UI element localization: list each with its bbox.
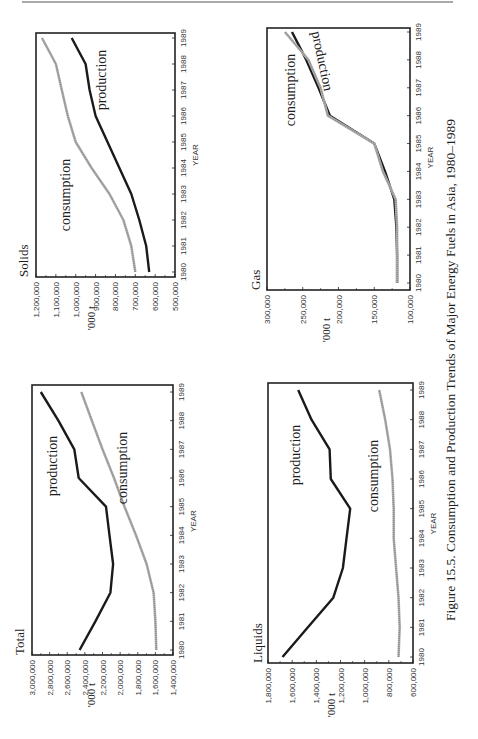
x-tick-label: 1988	[177, 411, 186, 429]
y-tick-label: 2,800,000	[46, 659, 55, 695]
y-tick-label: 150,000	[370, 294, 379, 323]
y-axis-title: '000 t	[320, 318, 332, 342]
x-tick-label: 1987	[414, 78, 423, 96]
x-tick-label: 1984	[177, 526, 186, 544]
production-label: production	[288, 425, 303, 486]
consumption-line	[379, 390, 400, 657]
y-tick-label: 500,000	[171, 281, 180, 310]
x-tick-label: 1980	[177, 641, 186, 659]
y-tick-label: 1,200,000	[337, 667, 346, 703]
x-tick-label: 1981	[177, 612, 186, 630]
x-tick-label: 1980	[417, 648, 426, 666]
x-tick-label: 1983	[177, 555, 186, 573]
x-tick-label: 1981	[417, 618, 426, 636]
x-tick-label: 1984	[179, 159, 188, 177]
x-tick-label: 1989	[177, 383, 186, 401]
production-line	[41, 392, 113, 650]
figure-page: 1980198119821983198419851986198719881989…	[0, 0, 478, 739]
x-tick-label: 1988	[179, 55, 188, 73]
x-axis-title: YEAR	[429, 512, 438, 534]
y-tick-label: 2,200,000	[99, 659, 108, 695]
x-tick-label: 1983	[417, 559, 426, 577]
x-tick-label: 1984	[417, 529, 426, 547]
x-tick-label: 1981	[414, 246, 423, 264]
y-tick-label: 800,000	[385, 667, 394, 696]
panel-title: Liquids	[250, 623, 265, 663]
y-tick-label: 1,600,000	[151, 659, 160, 695]
y-tick-label: 600,000	[151, 281, 160, 310]
x-tick-label: 1986	[179, 107, 188, 125]
y-tick-label: 3,000,000	[28, 659, 37, 695]
production-label: production	[45, 436, 60, 497]
x-tick-label: 1980	[179, 263, 188, 281]
x-tick-label: 1988	[417, 410, 426, 428]
y-axis-title: '000 t	[325, 693, 337, 717]
figure-svg: 1980198119821983198419851986198719881989…	[0, 0, 478, 739]
plot-frame	[32, 385, 173, 655]
x-tick-label: 1983	[179, 185, 188, 203]
production-label: production	[94, 50, 109, 111]
panel-title: Total	[12, 628, 27, 655]
consumption-label: consumption	[115, 432, 130, 504]
panel-title: Solids	[16, 244, 31, 277]
panel-liquids: 1980198119821983198419851986198719881989…	[250, 381, 438, 718]
x-tick-label: 1985	[177, 497, 186, 515]
x-tick-label: 1985	[417, 499, 426, 517]
x-axis-title: YEAR	[189, 510, 198, 532]
y-tick-label: 1,800,000	[264, 667, 273, 703]
x-tick-label: 1983	[414, 190, 423, 208]
y-tick-label: 700,000	[131, 281, 140, 310]
y-tick-label: 1,400,000	[169, 659, 178, 695]
y-tick-label: 1,200,000	[32, 281, 41, 317]
x-tick-label: 1985	[179, 133, 188, 151]
y-tick-label: 250,000	[299, 294, 308, 323]
x-tick-label: 1985	[414, 134, 423, 152]
consumption-line-halo	[42, 38, 135, 272]
x-tick-label: 1982	[414, 218, 423, 236]
x-axis-title: YEAR	[191, 144, 200, 166]
consumption-line-halo	[379, 390, 400, 657]
y-tick-label: 600,000	[409, 667, 418, 696]
x-tick-label: 1984	[414, 162, 423, 180]
y-tick-label: 200,000	[335, 294, 344, 323]
y-tick-label: 1,400,000	[312, 667, 321, 703]
y-axis-title: '000 t	[85, 683, 97, 707]
panel-gas: 1980198119821983198419851986198719881989…	[248, 23, 435, 343]
x-tick-label: 1989	[417, 381, 426, 399]
consumption-label: consumption	[366, 440, 381, 512]
consumption-line-halo	[81, 392, 156, 650]
panel-solids: 1980198119821983198419851986198719881989…	[16, 29, 200, 331]
y-tick-label: 800,000	[111, 281, 120, 310]
x-axis-title: YEAR	[426, 146, 435, 168]
x-tick-label: 1989	[414, 23, 423, 41]
consumption-line	[81, 392, 156, 650]
x-tick-label: 1982	[417, 588, 426, 606]
x-tick-label: 1982	[177, 583, 186, 601]
x-tick-label: 1986	[417, 470, 426, 488]
x-tick-label: 1981	[179, 237, 188, 255]
consumption-label: consumption	[283, 54, 298, 126]
x-tick-label: 1986	[414, 106, 423, 124]
x-tick-label: 1987	[177, 440, 186, 458]
production-label: production	[309, 30, 336, 92]
x-tick-label: 1982	[179, 211, 188, 229]
panel-title: Gas	[248, 270, 263, 290]
y-axis-title: '000 t	[85, 306, 97, 330]
x-tick-label: 1988	[414, 50, 423, 68]
panel-total: 1980198119821983198419851986198719881989…	[12, 383, 198, 708]
x-tick-label: 1986	[177, 469, 186, 487]
production-line	[292, 32, 397, 283]
x-tick-label: 1980	[414, 274, 423, 292]
y-tick-label: 1,100,000	[52, 281, 61, 317]
consumption-label: consumption	[58, 159, 73, 231]
y-tick-label: 100,000	[406, 294, 415, 323]
y-tick-label: 1,600,000	[288, 667, 297, 703]
y-tick-label: 1,000,000	[361, 667, 370, 703]
x-tick-label: 1987	[179, 81, 188, 99]
consumption-line	[42, 38, 135, 272]
x-tick-label: 1989	[179, 29, 188, 47]
y-tick-label: 2,600,000	[63, 659, 72, 695]
y-tick-label: 1,000,000	[72, 281, 81, 317]
x-tick-label: 1987	[417, 440, 426, 458]
y-tick-label: 2,000,000	[116, 659, 125, 695]
